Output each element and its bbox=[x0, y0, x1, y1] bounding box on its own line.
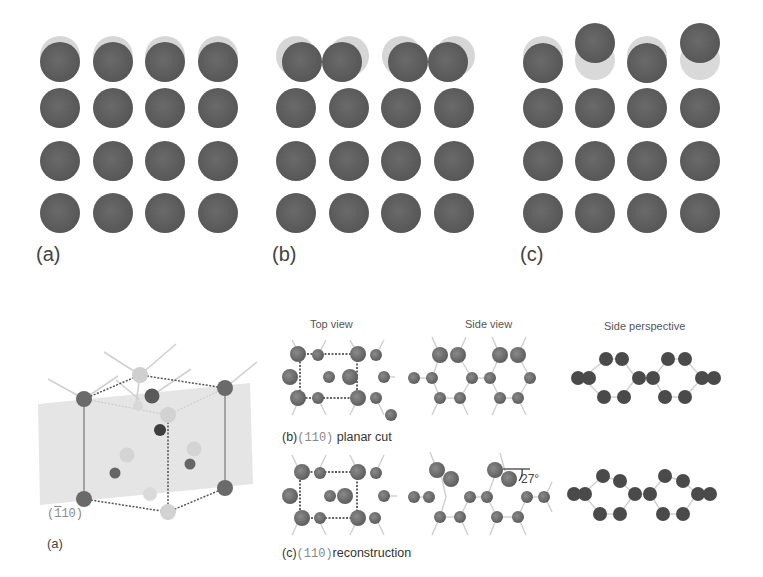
row-b-prefix: (b) bbox=[282, 430, 297, 444]
top-panel-a-grid bbox=[40, 36, 238, 233]
row-c-prefix: (c) bbox=[282, 546, 297, 560]
plane-miller-label: (110) bbox=[47, 507, 83, 521]
row-c-caption: (c)(110)reconstruction bbox=[282, 546, 411, 561]
top-panel-c-grid bbox=[523, 23, 720, 233]
column-header-top-view: Top view bbox=[310, 318, 353, 330]
top-panel-a-label: (a) bbox=[36, 243, 60, 266]
column-header-side-perspective: Side perspective bbox=[604, 320, 685, 332]
row-c-top-view bbox=[282, 455, 397, 535]
row-c-miller-index: (110) bbox=[297, 547, 333, 561]
row-b-caption: (b)(110) planar cut bbox=[282, 430, 392, 445]
column-header-side-view: Side view bbox=[465, 318, 512, 330]
row-c-text: reconstruction bbox=[333, 546, 412, 560]
plane-label-rest: 10) bbox=[61, 507, 83, 521]
top-panel-b-label: (b) bbox=[272, 243, 296, 266]
row-c-side-view bbox=[408, 452, 552, 535]
unit-cell-diagram bbox=[38, 344, 257, 520]
row-b-miller-index: (110) bbox=[297, 431, 333, 445]
row-c-side-perspective bbox=[567, 469, 717, 521]
figure-canvas bbox=[0, 0, 763, 577]
row-b-top-view bbox=[282, 340, 397, 421]
top-panel-c-label: (c) bbox=[520, 243, 543, 266]
bottom-panel-a-label: (a) bbox=[47, 536, 63, 551]
row-b-text: planar cut bbox=[333, 430, 391, 444]
row-b-side-view bbox=[408, 337, 536, 415]
row-b-side-perspective bbox=[571, 352, 721, 404]
angle-label: 27° bbox=[521, 472, 539, 486]
top-panel-b-grid bbox=[276, 36, 475, 233]
